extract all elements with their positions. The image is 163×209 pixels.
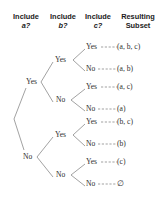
edge-b-yes2-to-c6 <box>73 135 85 146</box>
edge-a-yes-to-b-yes <box>41 62 53 82</box>
decision-tree-diagram: Include a? Include b? Include c? Resulti… <box>0 0 163 209</box>
node-b-no-2-label: No <box>56 170 65 179</box>
node-b-yes-2-label: Yes <box>55 130 66 139</box>
node-a-no[interactable]: No <box>23 153 32 161</box>
node-a-yes[interactable]: Yes <box>26 78 37 86</box>
node-c-4-label: No <box>86 104 95 113</box>
node-b-yes-2[interactable]: Yes <box>55 131 66 139</box>
result-2: (a, b) <box>117 65 133 73</box>
node-c-7-label: Yes <box>86 157 97 166</box>
result-6: (b) <box>117 140 126 148</box>
edge-b-yes1-to-c1 <box>73 49 85 60</box>
result-2-text: (a, b) <box>117 64 133 73</box>
node-c-1[interactable]: Yes <box>86 43 97 51</box>
node-c-8-label: No <box>86 179 95 188</box>
node-c-8[interactable]: No <box>86 180 95 188</box>
edge-b-no1-to-c3 <box>71 89 85 100</box>
edge-b-yes1-to-c2 <box>73 60 85 71</box>
result-1: (a, b, c) <box>117 43 140 51</box>
header-include-c-line2: c? <box>78 21 118 30</box>
edge-a-no-to-b-yes <box>37 137 53 157</box>
node-c-5-label: Yes <box>86 117 97 126</box>
node-c-1-label: Yes <box>86 42 97 51</box>
result-8-text: ∅ <box>117 179 124 188</box>
header-include-b: Include b? <box>43 12 83 30</box>
node-b-no-2[interactable]: No <box>56 171 65 179</box>
header-include-b-line2: b? <box>43 21 83 30</box>
node-c-5[interactable]: Yes <box>86 118 97 126</box>
node-a-no-label: No <box>23 152 32 161</box>
result-5: (b, c) <box>117 118 133 126</box>
header-resulting-subset-line1: Resulting <box>115 12 161 21</box>
edge-b-no1-to-c4 <box>71 100 85 111</box>
node-c-2[interactable]: No <box>86 65 95 73</box>
node-c-4[interactable]: No <box>86 105 95 113</box>
edge-root-to-a-no <box>14 119 24 150</box>
node-a-yes-label: Yes <box>26 77 37 86</box>
result-3: (a, c) <box>117 83 133 91</box>
result-1-text: (a, b, c) <box>117 42 140 51</box>
edge-b-yes2-to-c5 <box>73 124 85 135</box>
node-c-3-label: Yes <box>86 82 97 91</box>
result-4-text: (a) <box>117 104 125 113</box>
header-include-c-line1: Include <box>78 12 118 21</box>
header-include-a-line1: Include <box>6 12 46 21</box>
node-c-7[interactable]: Yes <box>86 158 97 166</box>
edge-b-no2-to-c8 <box>71 175 85 186</box>
header-resulting-subset: Resulting Subset <box>115 12 161 30</box>
result-7: (c) <box>117 158 125 166</box>
header-include-b-line1: Include <box>43 12 83 21</box>
edge-b-no2-to-c7 <box>71 164 85 175</box>
node-b-no-1[interactable]: No <box>56 96 65 104</box>
node-c-6-label: No <box>86 139 95 148</box>
header-include-a: Include a? <box>6 12 46 30</box>
node-c-2-label: No <box>86 64 95 73</box>
result-8: ∅ <box>117 180 124 188</box>
header-include-c: Include c? <box>78 12 118 30</box>
result-5-text: (b, c) <box>117 117 133 126</box>
edge-a-yes-to-b-no <box>41 82 53 102</box>
node-c-3[interactable]: Yes <box>86 83 97 91</box>
node-b-no-1-label: No <box>56 95 65 104</box>
header-resulting-subset-line2: Subset <box>115 21 161 30</box>
node-c-6[interactable]: No <box>86 140 95 148</box>
node-b-yes-1[interactable]: Yes <box>55 56 66 64</box>
edge-a-no-to-b-no <box>37 157 53 177</box>
result-3-text: (a, c) <box>117 82 133 91</box>
node-b-yes-1-label: Yes <box>55 55 66 64</box>
header-include-a-line2: a? <box>6 21 46 30</box>
edge-root-to-a-yes <box>14 88 26 119</box>
result-7-text: (c) <box>117 157 125 166</box>
tree-edges <box>0 0 163 209</box>
result-4: (a) <box>117 105 125 113</box>
result-6-text: (b) <box>117 139 126 148</box>
